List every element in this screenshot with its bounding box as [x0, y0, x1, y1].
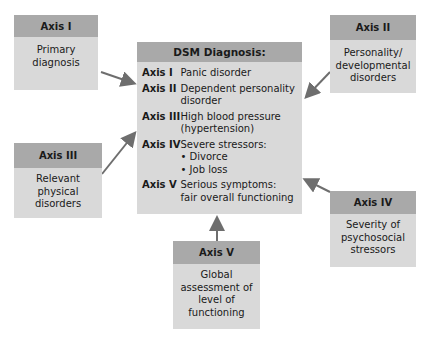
arrow-axis2	[307, 72, 330, 96]
arrow-axis1	[101, 72, 133, 83]
dsm-diagnosis-table: Axis I Panic disorder Axis II Dependent …	[142, 67, 295, 207]
axis4-box: Axis IV Severity of psychosocial stresso…	[330, 191, 416, 267]
diagnosis-row: Axis IV Severe stressors:• Divorce• Job …	[142, 139, 295, 180]
axis1-desc: Primary diagnosis	[14, 37, 98, 69]
axis5-box: Axis V Global assessment of level of fun…	[173, 241, 260, 329]
diagnosis-row: Axis V Serious symptoms:fair overall fun…	[142, 179, 295, 207]
axis1-box: Axis I Primary diagnosis	[14, 15, 98, 90]
axis2-box: Axis II Personality/ developmental disor…	[330, 15, 416, 93]
arrow-axis3	[102, 134, 134, 174]
axis1-title: Axis I	[14, 15, 98, 37]
dsm-diagnosis-title: DSM Diagnosis:	[137, 42, 302, 62]
diagnosis-row: Axis III High blood pressure(hypertensio…	[142, 111, 295, 139]
axis5-title: Axis V	[173, 241, 260, 264]
diagnosis-row: Axis I Panic disorder	[142, 67, 295, 83]
axis4-title: Axis IV	[330, 191, 416, 214]
axis3-box: Axis III Relevant physical disorders	[14, 143, 102, 218]
axis2-title: Axis II	[330, 15, 416, 40]
axis2-desc: Personality/ developmental disorders	[330, 40, 416, 85]
dsm-diagnosis-box: DSM Diagnosis: Axis I Panic disorder Axi…	[137, 42, 302, 214]
axis4-desc: Severity of psychosocial stressors	[330, 214, 416, 257]
axis3-desc: Relevant physical disorders	[14, 168, 102, 211]
diagnosis-row: Axis II Dependent personalitydisorder	[142, 83, 295, 111]
arrow-axis4	[306, 180, 330, 192]
axis5-desc: Global assessment of level of functionin…	[173, 264, 260, 319]
axis3-title: Axis III	[14, 143, 102, 168]
